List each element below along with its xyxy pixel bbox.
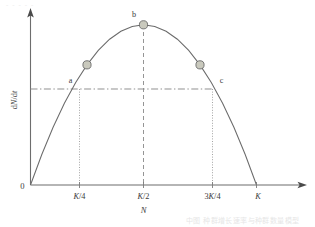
origin-label: 0 <box>20 181 24 191</box>
data-point-b-marker[interactable] <box>139 21 147 29</box>
data-point-c-marker[interactable] <box>196 61 204 69</box>
data-point-a-marker[interactable] <box>83 61 91 69</box>
logistic-growth-rate-chart: a b c 0 K/4 K/2 3K/4 K N dN/dt <box>0 0 315 227</box>
y-axis-label: dN/dt <box>10 90 19 109</box>
x-tick-label-k4: K/4 <box>72 192 86 201</box>
reference-lines-group <box>31 25 214 185</box>
x-tick-labels-group: K/4 K/2 3K/4 K <box>72 192 261 201</box>
x-tick-label-k4-denom: /4 <box>79 192 86 201</box>
x-tick-label-3k4-denom: /4 <box>214 192 221 201</box>
data-point-a-label: a <box>69 76 73 85</box>
x-tick-label-3k4: 3K/4 <box>204 192 221 201</box>
x-tick-label-k2: K/2 <box>136 192 149 201</box>
data-point-c-label: c <box>220 76 224 85</box>
figure-caption-faint: 中图 种群增长速率与种群数量模型 <box>186 215 299 225</box>
data-point-b-label: b <box>132 10 136 19</box>
x-axis-label: N <box>140 205 148 215</box>
y-axis-label-t: t <box>10 90 19 93</box>
chart-svg: a b c 0 K/4 K/2 3K/4 K N dN/dt <box>0 0 315 227</box>
y-axis-label-group: dN/dt <box>10 90 19 109</box>
axes-group <box>27 8 307 188</box>
x-tick-label-k: K <box>254 192 261 201</box>
x-tick-label-k2-denom: /2 <box>143 192 149 201</box>
